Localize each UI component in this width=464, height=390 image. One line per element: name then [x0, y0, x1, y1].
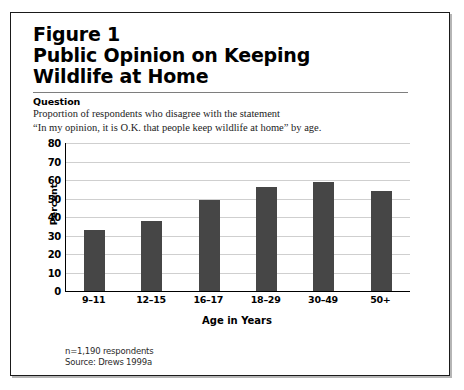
bar-slot — [66, 143, 123, 291]
figure-title-line-2: Public Opinion on Keeping — [33, 45, 415, 66]
figure-frame: Figure 1 Public Opinion on Keeping Wildl… — [10, 12, 450, 376]
y-axis-tick-label: 70 — [48, 156, 61, 167]
question-text-line-2: “In my opinion, it is O.K. that people k… — [33, 122, 415, 135]
y-axis-tick-label: 40 — [48, 212, 61, 223]
footnote-source: Source: Drews 1999a — [65, 357, 415, 368]
y-axis-tick-label: 50 — [48, 193, 61, 204]
y-axis-tick-label: 60 — [48, 175, 61, 186]
x-axis-tick-label: 50+ — [352, 294, 409, 305]
x-axis-tick-label: 18–29 — [237, 294, 294, 305]
title-divider — [33, 92, 408, 93]
plot-wrapper: 80706050403020100 — [65, 143, 413, 318]
bar-slot — [123, 143, 180, 291]
x-axis-tick-label: 12–15 — [122, 294, 179, 305]
bar-series — [66, 143, 410, 291]
bar-slot — [181, 143, 238, 291]
figure-number: Figure 1 — [33, 24, 415, 45]
bar — [371, 191, 392, 291]
bar — [313, 182, 334, 291]
bar — [199, 200, 220, 291]
bar — [256, 187, 277, 291]
footnotes: n=1,190 respondents Source: Drews 1999a — [65, 346, 415, 367]
bar — [141, 221, 162, 291]
y-axis-tick-label: 30 — [48, 230, 61, 241]
figure-title-line-3: Wildlife at Home — [33, 66, 415, 87]
y-axis-tick-label: 0 — [54, 286, 61, 297]
y-axis-ticks: 80706050403020100 — [35, 143, 61, 291]
x-axis-tick-label: 30–49 — [294, 294, 351, 305]
y-axis-tick-label: 80 — [48, 138, 61, 149]
y-axis-tick-label: 10 — [48, 267, 61, 278]
x-axis-tick-label: 16–17 — [180, 294, 237, 305]
footnote-sample-size: n=1,190 respondents — [65, 346, 415, 357]
question-heading: Question — [33, 96, 415, 107]
x-axis-tick-label: 9–11 — [65, 294, 122, 305]
bar-slot — [353, 143, 410, 291]
x-axis-title: Age in Years — [65, 315, 409, 326]
bar-slot — [295, 143, 352, 291]
bar-chart: Percent 80706050403020100 9–1112–1516–17… — [33, 143, 413, 318]
x-axis-ticks: 9–1112–1516–1718–2930–4950+ — [65, 294, 409, 305]
question-text-line-1: Proportion of respondents who disagree w… — [33, 108, 415, 121]
bar — [84, 230, 105, 291]
y-axis-tick-label: 20 — [48, 249, 61, 260]
figure-content: Figure 1 Public Opinion on Keeping Wildl… — [33, 23, 415, 363]
bar-slot — [238, 143, 295, 291]
plot-area — [65, 143, 410, 292]
